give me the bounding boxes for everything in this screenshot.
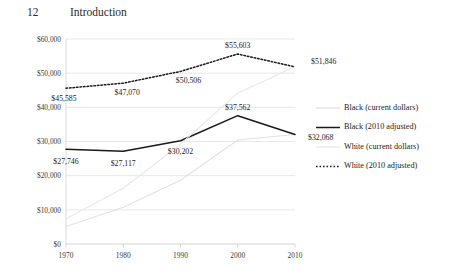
legend-label: Black (current dollars) <box>344 103 418 112</box>
data-label: $27,117 <box>111 159 136 168</box>
legend-label: Black (2010 adjusted) <box>344 122 417 131</box>
x-axis-ticks <box>66 244 295 248</box>
income-line-chart: $0$10,000$20,000$30,000$40,000$50,000$60… <box>0 28 451 278</box>
series-line <box>66 67 295 219</box>
y-tick-label: $20,000 <box>37 171 61 180</box>
data-label: $37,562 <box>225 103 250 112</box>
x-axis-tick-labels: 19701980199020002010 <box>59 251 303 260</box>
data-label: $27,746 <box>53 157 78 166</box>
data-label: $55,603 <box>225 41 250 50</box>
x-tick-label: 1970 <box>59 251 74 260</box>
data-label: $50,506 <box>176 76 201 85</box>
page-number: 12 <box>27 5 39 20</box>
page-title: Introduction <box>70 5 127 20</box>
x-tick-label: 1990 <box>173 251 188 260</box>
y-tick-label: $30,000 <box>37 137 61 146</box>
legend-label: White (2010 adjusted) <box>344 161 417 170</box>
book-page: 12 Introduction $0$10,000$20,000$30,000$… <box>0 0 451 278</box>
data-label: $47,070 <box>115 88 140 97</box>
x-tick-label: 2010 <box>288 251 303 260</box>
y-tick-label: $60,000 <box>37 35 61 44</box>
x-tick-label: 1980 <box>116 251 131 260</box>
chart-canvas: $0$10,000$20,000$30,000$40,000$50,000$60… <box>0 28 451 278</box>
data-label: $45,585 <box>51 94 76 103</box>
y-tick-label: $50,000 <box>37 69 61 78</box>
data-label: $32,068 <box>308 133 333 142</box>
y-axis-tick-labels: $0$10,000$20,000$30,000$40,000$50,000$60… <box>37 35 61 249</box>
data-point-labels: $27,746$27,117$30,202$37,562$32,068$45,5… <box>51 41 336 168</box>
y-tick-label: $0 <box>54 240 62 249</box>
x-tick-label: 2000 <box>230 251 245 260</box>
y-tick-label: $10,000 <box>37 206 61 215</box>
data-label: $51,846 <box>311 57 336 66</box>
running-head: 12 Introduction <box>0 5 451 23</box>
data-label: $30,202 <box>168 147 193 156</box>
legend-label: White (current dollars) <box>344 142 419 151</box>
y-tick-label: $40,000 <box>37 103 61 112</box>
